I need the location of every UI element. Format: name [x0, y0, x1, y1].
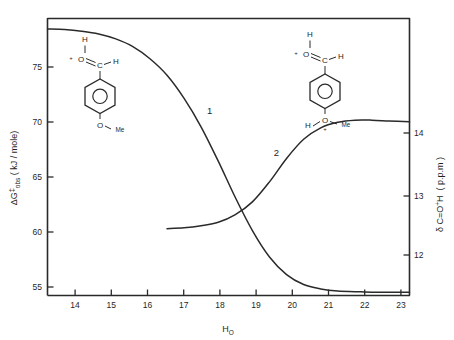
right-ticklabel-14: 14	[414, 128, 424, 138]
struct-left-o: O	[78, 55, 84, 64]
left-ticklabel-65: 65	[33, 172, 43, 182]
right-ticklabel-13: 13	[414, 191, 424, 201]
right-axis-title: δ C=O+H ( p.p.m )	[434, 157, 446, 232]
left-axis-units: ( kJ / mole)	[9, 131, 19, 176]
curve-1-label: 1	[207, 105, 212, 116]
struct-left-bottom-o: O	[97, 121, 103, 130]
struct-left-top-h: H	[82, 35, 88, 44]
struct-right-plus: +	[294, 50, 298, 56]
struct-right-me: Me	[342, 121, 351, 128]
x-ticklabel-20: 20	[288, 300, 298, 310]
struct-left-h-right: H	[113, 57, 119, 66]
left-ticklabel-75: 75	[33, 62, 43, 72]
x-ticklabel-18: 18	[215, 300, 225, 310]
struct-right-bottom-h: H	[305, 121, 311, 130]
x-ticklabel-14: 14	[70, 300, 80, 310]
x-ticklabel-19: 19	[251, 300, 261, 310]
right-ticklabel-12: 12	[414, 250, 424, 260]
struct-right-h-right: H	[338, 52, 344, 61]
left-ticklabel-70: 70	[33, 117, 43, 127]
curve-2-label: 2	[274, 147, 279, 158]
struct-right-bottom-o: O	[322, 116, 328, 125]
x-ticklabel-23: 23	[396, 300, 406, 310]
x-ticklabel-22: 22	[360, 300, 370, 310]
x-ticklabel-21: 21	[324, 300, 334, 310]
left-axis-title-text: ΔG‡obs ( kJ / mole)	[7, 131, 22, 206]
right-axis-units: ( p.p.m )	[435, 157, 445, 191]
struct-right-c: C	[322, 56, 328, 65]
right-axis-title-text: δ C=O+H ( p.p.m )	[434, 157, 446, 232]
x-axis-title-subscript: O	[229, 329, 234, 336]
struct-right-o: O	[303, 50, 309, 59]
left-ticklabel-60: 60	[33, 227, 43, 237]
struct-left-plus: +	[69, 55, 73, 61]
x-ticklabel-16: 16	[143, 300, 153, 310]
left-axis-delta-g: ΔG	[9, 192, 19, 205]
struct-left-c: C	[97, 61, 103, 70]
struct-right-top-h: H	[307, 30, 313, 39]
figure-container: 75 70 65 60 55 ΔG‡obs ( kJ / mole) 14 13…	[0, 0, 454, 340]
x-ticklabel-17: 17	[179, 300, 189, 310]
left-axis-title: ΔG‡obs ( kJ / mole)	[7, 131, 22, 206]
chart-background	[0, 0, 454, 340]
right-axis-species: C=O	[435, 206, 445, 225]
struct-right-bottom-plus: +	[323, 126, 327, 132]
x-ticklabel-15: 15	[107, 300, 117, 310]
left-ticklabel-55: 55	[33, 282, 43, 292]
struct-left-me: Me	[116, 126, 125, 133]
chart-svg: 75 70 65 60 55 ΔG‡obs ( kJ / mole) 14 13…	[0, 0, 454, 340]
